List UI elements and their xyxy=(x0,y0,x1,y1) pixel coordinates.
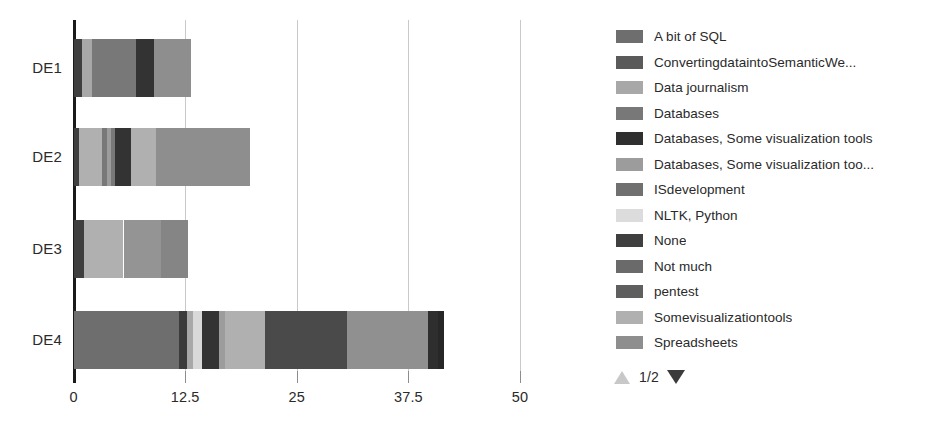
gridline xyxy=(520,20,521,383)
legend-swatch xyxy=(616,285,643,298)
y-axis-label-row: DE2 xyxy=(0,148,62,166)
x-axis-tick xyxy=(297,371,298,383)
bar-segment[interactable] xyxy=(428,311,438,369)
legend-item-label: Databases xyxy=(654,106,719,121)
bar-segment[interactable] xyxy=(179,311,187,369)
legend-item[interactable]: Not much xyxy=(616,254,916,280)
stacked-bar[interactable] xyxy=(74,128,251,186)
bar-segment[interactable] xyxy=(136,39,154,97)
bar-segment[interactable] xyxy=(154,39,192,97)
legend-item-label: ConvertingdataintoSemanticWe... xyxy=(654,55,856,70)
bar-segment[interactable] xyxy=(115,128,130,186)
legend-swatch xyxy=(616,311,643,324)
legend-item[interactable]: Databases, Some visualization tools xyxy=(616,126,916,152)
legend-item[interactable]: ISdevelopment xyxy=(616,177,916,203)
bar-segment[interactable] xyxy=(74,39,83,97)
legend-swatch xyxy=(616,209,643,222)
triangle-down-icon[interactable] xyxy=(667,370,685,384)
bar-segment[interactable] xyxy=(202,311,219,369)
legend-item-label: NLTK, Python xyxy=(654,208,738,223)
legend-item[interactable]: NLTK, Python xyxy=(616,203,916,229)
x-axis-tick-label: 0 xyxy=(69,389,77,405)
legend-item-label: ISdevelopment xyxy=(654,182,745,197)
legend-item-label: Databases, Some visualization too... xyxy=(654,157,874,172)
triangle-up-icon[interactable] xyxy=(614,371,630,384)
pager-label: 1/2 xyxy=(639,369,659,385)
legend-item-label: Spreadsheets xyxy=(654,335,738,350)
legend-swatch xyxy=(616,260,643,273)
legend: A bit of SQLConvertingdataintoSemanticWe… xyxy=(616,24,916,356)
bar-segment[interactable] xyxy=(92,39,136,97)
x-axis-tick xyxy=(408,371,409,383)
x-axis-tick-label: 25 xyxy=(289,389,305,405)
y-axis-tick-label: DE4 xyxy=(32,331,62,348)
legend-item[interactable]: Spreadsheets xyxy=(616,330,916,356)
y-axis-tick-label: DE1 xyxy=(32,59,62,76)
chart-screenshot: DE1DE2DE3DE4 012.52537.550 A bit of SQLC… xyxy=(0,0,925,444)
x-axis-tick-label: 12.5 xyxy=(171,389,200,405)
stacked-bar[interactable] xyxy=(74,311,445,369)
bar-segment[interactable] xyxy=(124,220,162,278)
legend-item[interactable]: ConvertingdataintoSemanticWe... xyxy=(616,50,916,76)
bar-segment[interactable] xyxy=(225,311,265,369)
legend-swatch xyxy=(616,336,643,349)
legend-item-label: Somevisualizationtools xyxy=(654,310,792,325)
bar-segment[interactable] xyxy=(156,128,251,186)
bar-segment[interactable] xyxy=(438,311,444,369)
x-axis-tick xyxy=(520,371,521,383)
bar-segment[interactable] xyxy=(82,39,92,97)
legend-swatch xyxy=(616,56,643,69)
legend-item-label: A bit of SQL xyxy=(654,29,727,44)
legend-item-label: None xyxy=(654,233,686,248)
legend-item[interactable]: Data journalism xyxy=(616,75,916,101)
legend-item-label: Data journalism xyxy=(654,80,749,95)
x-axis-tick xyxy=(185,371,186,383)
bar-segment[interactable] xyxy=(131,128,156,186)
x-axis-tick-label: 37.5 xyxy=(394,389,423,405)
legend-swatch xyxy=(616,107,643,120)
chart-plot-area: DE1DE2DE3DE4 012.52537.550 xyxy=(0,0,600,444)
stacked-bar[interactable] xyxy=(74,39,192,97)
legend-item[interactable]: Somevisualizationtools xyxy=(616,305,916,331)
y-axis-label-row: DE1 xyxy=(0,59,62,77)
bar-segment[interactable] xyxy=(74,311,179,369)
bar-segment[interactable] xyxy=(74,220,85,278)
bar-segment[interactable] xyxy=(265,311,346,369)
bar-segment[interactable] xyxy=(193,311,202,369)
bar-segment[interactable] xyxy=(79,128,102,186)
y-axis-tick-label: DE2 xyxy=(32,148,62,165)
legend-item[interactable]: Databases xyxy=(616,101,916,127)
legend-swatch xyxy=(616,183,643,196)
legend-pager[interactable]: 1/2 xyxy=(614,367,685,387)
y-axis-label-row: DE4 xyxy=(0,331,62,349)
x-axis-tick-label: 50 xyxy=(512,389,528,405)
bar-segment[interactable] xyxy=(347,311,428,369)
legend-item[interactable]: None xyxy=(616,228,916,254)
bar-segment[interactable] xyxy=(84,220,123,278)
legend-swatch xyxy=(616,132,643,145)
legend-item-label: Databases, Some visualization tools xyxy=(654,131,873,146)
legend-swatch xyxy=(616,30,643,43)
legend-swatch xyxy=(616,234,643,247)
legend-item[interactable]: Databases, Some visualization too... xyxy=(616,152,916,178)
legend-swatch xyxy=(616,81,643,94)
legend-item-label: pentest xyxy=(654,284,699,299)
legend-item[interactable]: A bit of SQL xyxy=(616,24,916,50)
legend-item[interactable]: pentest xyxy=(616,279,916,305)
legend-swatch xyxy=(616,158,643,171)
legend-item-label: Not much xyxy=(654,259,712,274)
stacked-bar[interactable] xyxy=(74,220,188,278)
y-axis-label-row: DE3 xyxy=(0,240,62,258)
y-axis-tick-label: DE3 xyxy=(32,240,62,257)
bar-segment[interactable] xyxy=(161,220,188,278)
